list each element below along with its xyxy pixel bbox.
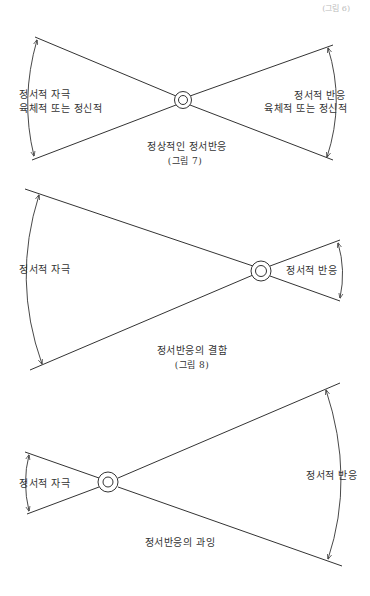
- fig8-caption: 정서반응의 결함: [157, 344, 227, 357]
- fig7-right-label-line2: 육체적 또는 정신적: [264, 102, 347, 115]
- fig8-figure-number: (그림 8): [175, 359, 210, 372]
- fig9-upper-left-line: [25, 452, 99, 478]
- fig9-right-label: 정서적 반응: [306, 469, 357, 482]
- fig8-right-arc-arrow-icon: [338, 243, 343, 298]
- fig8-upper-right-line: [270, 240, 340, 266]
- fig9-lower-right-line: [118, 487, 342, 566]
- fig9-caption: 정서반응의 과잉: [145, 536, 215, 549]
- fig9-left-label: 정서적 자극: [19, 477, 70, 490]
- fig8-lower-right-line: [270, 276, 340, 301]
- fig8-left-label: 정서적 자극: [19, 263, 70, 276]
- fig7-caption: 정상적인 정서반응: [147, 140, 227, 153]
- fig9-outer-ring-icon: [98, 472, 118, 492]
- fig8-left-arc-arrow-icon: [26, 195, 42, 364]
- fig7-left-label-line2: 육체적 또는 정신적: [19, 102, 102, 115]
- fig7-figure-number: (그림 7): [168, 155, 203, 168]
- fig7-outer-ring-icon: [175, 92, 192, 109]
- fig8-right-label: 정서적 반응: [286, 264, 337, 277]
- fig9-upper-right-line: [118, 383, 340, 478]
- fig8-upper-left-line: [25, 189, 253, 266]
- fig9-lower-left-line: [27, 487, 99, 514]
- fig8-outer-ring-icon: [251, 261, 271, 281]
- fig7-right-label-line1: 정서적 반응: [294, 89, 345, 102]
- fig7-left-label-line1: 정서적 자극: [19, 88, 70, 101]
- figure-8-diagram: [25, 189, 343, 370]
